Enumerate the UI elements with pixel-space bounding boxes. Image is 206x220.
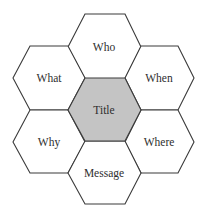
hex-label-what: What	[37, 72, 63, 84]
hex-label-why: Why	[38, 136, 61, 149]
hex-label-title: Title	[93, 104, 114, 116]
hex-label-who: Who	[93, 41, 116, 53]
hex-label-when: When	[145, 72, 173, 84]
hex-label-where: Where	[144, 136, 175, 148]
hex-label-message: Message	[84, 167, 124, 180]
hexagon-diagram: Who What When Why Where Message Title	[0, 0, 206, 220]
